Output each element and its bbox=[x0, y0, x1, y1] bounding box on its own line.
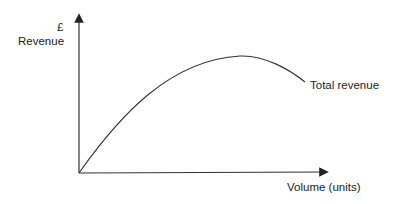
y-axis-label: Revenue bbox=[18, 35, 64, 47]
currency-label: £ bbox=[57, 21, 63, 33]
x-axis-label: Volume (units) bbox=[287, 181, 361, 193]
x-axis bbox=[79, 172, 324, 173]
curve-label: Total revenue bbox=[310, 79, 379, 91]
total-revenue-curve bbox=[79, 56, 305, 173]
